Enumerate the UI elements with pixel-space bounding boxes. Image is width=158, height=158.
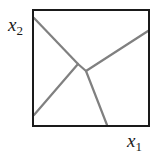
partition-lines: [34, 18, 148, 125]
diagram-canvas: x2 x1: [0, 0, 158, 158]
partition-line-1: [34, 18, 78, 64]
x-axis-label: x1: [126, 130, 142, 154]
y-axis-label: x2: [7, 14, 23, 38]
partition-line-4: [34, 64, 78, 115]
partition-line-3: [86, 31, 148, 71]
partition-line-5: [86, 71, 107, 125]
partition-line-2: [78, 64, 86, 71]
